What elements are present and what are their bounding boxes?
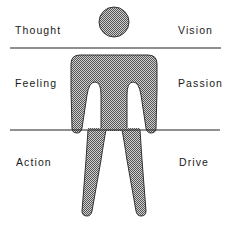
label-drive: Drive	[179, 156, 209, 168]
label-passion: Passion	[178, 77, 223, 89]
figure-left-leg	[82, 130, 113, 216]
figure-right-leg	[115, 130, 146, 216]
label-action: Action	[16, 156, 52, 168]
figure-head	[99, 7, 129, 37]
label-vision: Vision	[178, 24, 213, 36]
label-thought: Thought	[15, 24, 61, 36]
figure-torso	[71, 55, 157, 133]
label-feeling: Feeling	[15, 77, 57, 89]
